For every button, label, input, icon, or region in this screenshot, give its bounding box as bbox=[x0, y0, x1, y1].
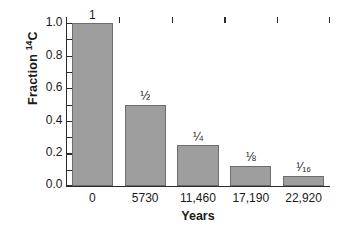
bar-slot-2: ¼ bbox=[172, 23, 225, 186]
carbon-14-decay-bar-chart: Fraction 14C 1.0 0.8 0.6 0.4 0.2 0.0 bbox=[0, 0, 350, 235]
bar-value-label-2: ¼ bbox=[172, 131, 225, 143]
x-tick-label-2: 11,460 bbox=[172, 191, 225, 205]
y-tick-label-0.4: 0.4 bbox=[30, 113, 62, 127]
bar-slot-3: ⅛ bbox=[224, 23, 277, 186]
bar-3[interactable] bbox=[230, 166, 271, 186]
y-tick-label-0.2: 0.2 bbox=[30, 145, 62, 159]
bar-1[interactable] bbox=[125, 105, 166, 187]
x-axis-line bbox=[66, 186, 330, 187]
x-axis-title: Years bbox=[66, 209, 330, 223]
x-tick-label-1: 5730 bbox=[119, 191, 172, 205]
y-axis-title-suffix: C bbox=[26, 31, 40, 40]
bar-value-label-0: 1 bbox=[66, 9, 119, 21]
y-tick-label-0.0: 0.0 bbox=[30, 177, 62, 191]
y-tick-label-0.6: 0.6 bbox=[30, 80, 62, 94]
bar-slot-4: ¹⁄₁₆ bbox=[277, 23, 330, 186]
x-tick-label-3: 17,190 bbox=[224, 191, 277, 205]
bar-value-label-1: ½ bbox=[119, 90, 172, 102]
bar-slot-1: ½ bbox=[119, 23, 172, 186]
y-tick-label-1.0: 1.0 bbox=[30, 15, 62, 29]
bar-series: 1 ½ ¼ ⅛ ¹⁄₁₆ bbox=[66, 23, 330, 186]
bar-value-label-4: ¹⁄₁₆ bbox=[277, 161, 330, 173]
y-tick-label-0.8: 0.8 bbox=[30, 48, 62, 62]
bar-0[interactable] bbox=[72, 23, 113, 186]
x-tick-label-0: 0 bbox=[66, 191, 119, 205]
bar-4[interactable] bbox=[283, 176, 324, 186]
bar-value-label-3: ⅛ bbox=[224, 151, 277, 163]
bar-slot-0: 1 bbox=[66, 23, 119, 186]
x-tick-labels: 0 5730 11,460 17,190 22,920 bbox=[66, 191, 330, 205]
x-tick-label-4: 22,920 bbox=[277, 191, 330, 205]
bar-2[interactable] bbox=[177, 145, 218, 186]
plot-area: 1.0 0.8 0.6 0.4 0.2 0.0 bbox=[66, 23, 330, 186]
